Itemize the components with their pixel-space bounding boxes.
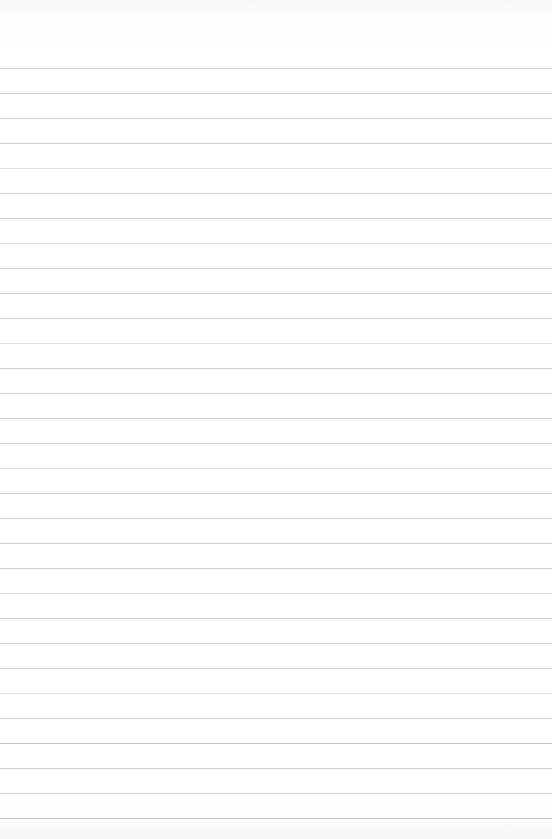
writing-area[interactable]	[0, 0, 552, 839]
notebook-page	[0, 0, 552, 839]
